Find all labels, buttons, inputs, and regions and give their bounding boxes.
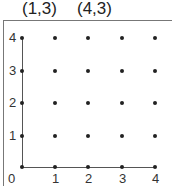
grid-dot [120,36,124,40]
grid-dot [120,69,124,73]
grid-dot [120,165,124,169]
grid-dot [53,69,57,73]
grid-dot [86,165,90,169]
grid-dot [20,134,24,138]
grid-dot [153,101,157,105]
grid-dot [120,134,124,138]
grid-dot [53,36,57,40]
x-tick-0: 0 [8,171,15,186]
grid-dot [153,134,157,138]
label-point-b: (4,3) [77,0,112,19]
grid-dot [53,101,57,105]
grid-dot [153,165,157,169]
y-tick-2: 2 [9,95,16,110]
grid-dot [20,101,24,105]
grid-dot [120,101,124,105]
grid-dot [153,69,157,73]
x-tick-2: 2 [85,171,92,186]
grid-dot [153,36,157,40]
grid-dot [86,69,90,73]
x-tick-4: 4 [152,171,159,186]
y-tick-3: 3 [9,63,16,78]
grid-dot [86,134,90,138]
grid-dot [20,36,24,40]
grid-dot [20,165,24,169]
x-tick-1: 1 [52,171,59,186]
y-tick-4: 4 [9,30,16,45]
grid-dot [53,165,57,169]
grid-dot [53,134,57,138]
grid-dot [86,36,90,40]
grid-dot [20,69,24,73]
label-point-a: (1,3) [22,0,57,19]
x-tick-3: 3 [119,171,126,186]
y-tick-1: 1 [9,128,16,143]
grid-dot [86,101,90,105]
